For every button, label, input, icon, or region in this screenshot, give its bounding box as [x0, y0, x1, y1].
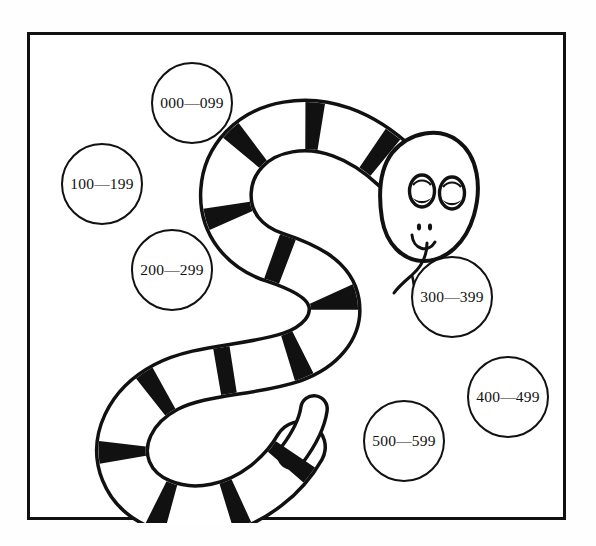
figure-root: 000—099 100—199 200—299 300—399 400—499 … — [0, 0, 596, 546]
bucket-label: 000—099 — [160, 95, 223, 111]
caption-strip — [0, 0, 596, 14]
bucket-label: 400—499 — [476, 389, 539, 405]
bucket-circle-300-399[interactable]: 300—399 — [411, 256, 493, 338]
bucket-circle-100-199[interactable]: 100—199 — [61, 143, 143, 225]
illustration-frame: 000—099 100—199 200—299 300—399 400—499 … — [27, 32, 566, 520]
bucket-label: 200—299 — [140, 262, 203, 278]
bucket-label: 100—199 — [70, 176, 133, 192]
snake-eye-right — [440, 177, 465, 209]
bucket-circle-500-599[interactable]: 500—599 — [363, 400, 445, 482]
snake-eye-left — [410, 175, 435, 207]
bucket-label: 300—399 — [420, 289, 483, 305]
snake-body-fill — [122, 126, 396, 512]
bucket-circle-000-099[interactable]: 000—099 — [151, 62, 233, 144]
bucket-circle-400-499[interactable]: 400—499 — [467, 356, 549, 438]
bucket-label: 500—599 — [372, 433, 435, 449]
bucket-circle-200-299[interactable]: 200—299 — [131, 229, 213, 311]
